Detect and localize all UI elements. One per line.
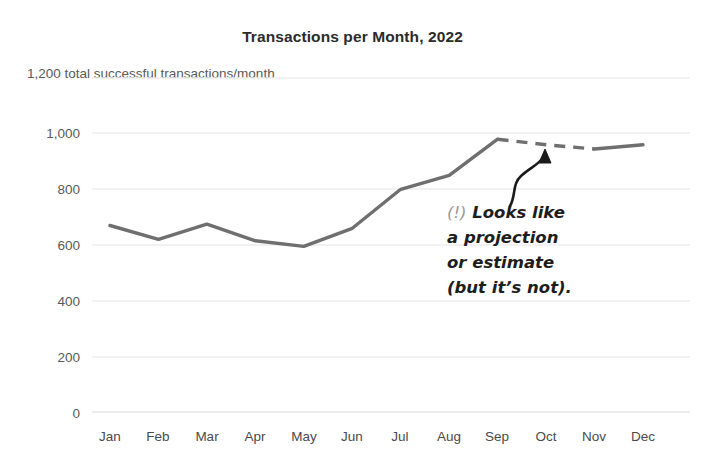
y-tick-1000: 1,000	[46, 126, 80, 141]
chart-container: Transactions per Month, 2022 1,200 total…	[0, 0, 705, 468]
x-tick-may: May	[291, 429, 317, 444]
x-tick-mar: Mar	[195, 429, 219, 444]
x-tick-nov: Nov	[582, 429, 606, 444]
line-segment-solid-jan-sep	[110, 139, 498, 246]
line-segment-dashed-sep-nov	[498, 139, 595, 149]
y-tick-400: 400	[57, 294, 80, 309]
y-axis-labels: 1,000 800 600 400 200 0	[46, 126, 80, 421]
callout-line-4: (but it’s not).	[447, 275, 572, 300]
x-tick-oct: Oct	[535, 429, 556, 444]
y-tick-200: 200	[57, 350, 80, 365]
x-tick-apr: Apr	[244, 429, 266, 444]
callout-arrow-icon	[510, 149, 551, 206]
callout-line-2: a projection	[447, 225, 572, 250]
y-tick-800: 800	[57, 182, 80, 197]
warning-icon: (!)	[447, 203, 467, 222]
callout-text-1: Looks like	[472, 203, 565, 222]
x-tick-jan: Jan	[99, 429, 121, 444]
x-tick-feb: Feb	[146, 429, 169, 444]
callout-line-3: or estimate	[447, 250, 572, 275]
chart-plot-area: 1,000 800 600 400 200 0 Jan Feb Mar Apr …	[0, 0, 705, 468]
x-tick-jul: Jul	[391, 429, 408, 444]
y-tick-0: 0	[72, 406, 80, 421]
x-tick-sep: Sep	[485, 429, 509, 444]
gridlines	[92, 78, 690, 412]
x-tick-aug: Aug	[437, 429, 461, 444]
y-tick-600: 600	[57, 238, 80, 253]
callout-line-1: (!) Looks like	[447, 200, 572, 225]
x-tick-dec: Dec	[631, 429, 655, 444]
projection-callout: (!) Looks like a projection or estimate …	[447, 200, 572, 300]
line-segment-solid-nov-dec	[595, 145, 644, 149]
x-axis-labels: Jan Feb Mar Apr May Jun Jul Aug Sep Oct …	[99, 429, 655, 444]
x-tick-jun: Jun	[341, 429, 363, 444]
